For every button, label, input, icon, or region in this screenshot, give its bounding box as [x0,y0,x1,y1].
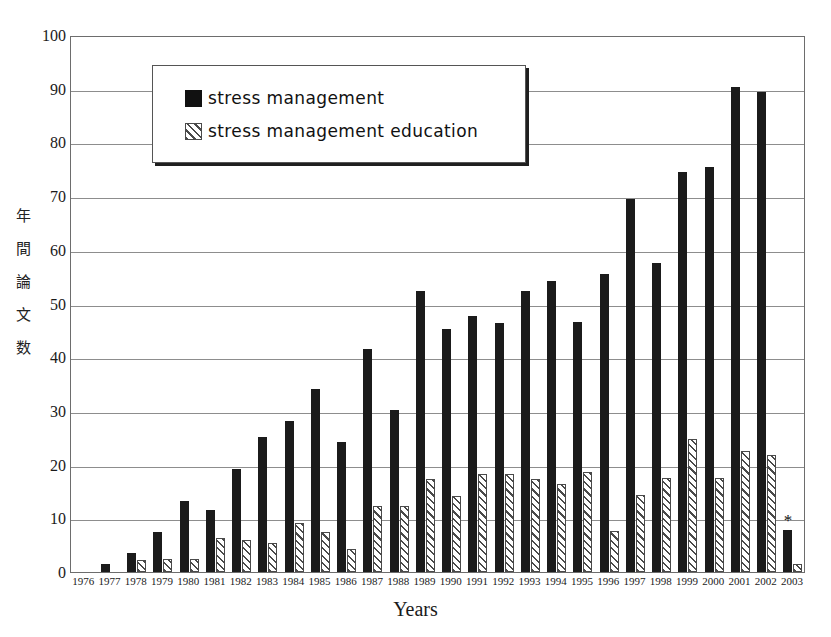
bar-hatch-2000 [715,478,724,572]
x-tick-1977: 1977 [98,575,120,587]
bar-hatch-1995 [583,472,592,572]
bar-solid-1997 [626,199,635,572]
bar-hatch-1978 [137,560,146,572]
legend-swatch-solid [185,90,202,107]
x-tick-1986: 1986 [335,575,357,587]
x-tick-1987: 1987 [361,575,383,587]
bar-hatch-1985 [321,532,330,572]
bar-solid-2002 [757,92,766,572]
x-tick-2000: 2000 [702,575,724,587]
bar-solid-1991 [468,316,477,572]
bar-hatch-1990 [452,496,461,572]
bar-hatch-1981 [216,538,225,572]
x-tick-1995: 1995 [571,575,593,587]
bar-solid-1998 [652,263,661,572]
bar-solid-1985 [311,389,320,572]
bar-solid-1990 [442,329,451,572]
bar-solid-1983 [258,437,267,572]
bar-solid-1988 [390,410,399,572]
bar-solid-1977 [101,564,110,572]
bar-hatch-1986 [347,549,356,572]
bar-solid-1986 [337,442,346,572]
bar-hatch-1999 [688,439,697,572]
bar-solid-1994 [547,281,556,572]
x-tick-1998: 1998 [650,575,672,587]
x-tick-1988: 1988 [387,575,409,587]
y-tick-100: 100 [28,27,66,45]
bar-solid-1992 [495,323,504,572]
bar-solid-1995 [573,322,582,572]
x-axis-label: Years [0,598,831,621]
x-tick-2003: 2003 [781,575,803,587]
bar-solid-1989 [416,291,425,572]
bar-hatch-2002 [767,455,776,572]
x-tick-2002: 2002 [755,575,777,587]
y-tick-60: 60 [28,242,66,260]
bar-hatch-1996 [610,531,619,572]
x-tick-1997: 1997 [623,575,645,587]
x-axis-ticks: 1976197719781979198019811982198319841985… [70,575,805,597]
bar-solid-1996 [600,274,609,572]
x-tick-1981: 1981 [203,575,225,587]
x-tick-1985: 1985 [308,575,330,587]
x-tick-1989: 1989 [413,575,435,587]
x-tick-1990: 1990 [440,575,462,587]
bar-hatch-1991 [478,474,487,572]
legend-item-stress-management: stress management [185,83,384,113]
x-tick-2001: 2001 [728,575,750,587]
x-tick-1982: 1982 [230,575,252,587]
legend-label-1: stress management education [208,121,478,141]
x-tick-1999: 1999 [676,575,698,587]
x-tick-1994: 1994 [545,575,567,587]
y-tick-70: 70 [28,188,66,206]
bar-hatch-1988 [400,506,409,572]
bar-chart: 年間論文数 0102030405060708090100 * 197619771… [0,0,831,637]
x-tick-1984: 1984 [282,575,304,587]
bar-solid-2000 [705,167,714,572]
x-tick-1983: 1983 [256,575,278,587]
y-axis-ticks: 0102030405060708090100 [22,0,66,637]
x-tick-1993: 1993 [518,575,540,587]
bar-hatch-1997 [636,495,645,572]
bar-solid-2003 [783,530,792,572]
bar-solid-1978 [127,553,136,572]
bar-solid-1980 [180,501,189,572]
y-tick-40: 40 [28,349,66,367]
bar-solid-1981 [206,510,215,572]
bar-hatch-2003 [793,564,802,572]
bar-solid-1987 [363,349,372,572]
y-tick-10: 10 [28,510,66,528]
bar-hatch-1998 [662,478,671,573]
bar-hatch-1993 [531,479,540,572]
bar-hatch-1994 [557,484,566,572]
bar-solid-1984 [285,421,294,572]
y-tick-80: 80 [28,134,66,152]
x-tick-1991: 1991 [466,575,488,587]
bar-hatch-1979 [163,559,172,572]
legend: stress management stress management educ… [152,65,526,163]
bar-hatch-1980 [190,559,199,572]
x-tick-1996: 1996 [597,575,619,587]
bar-solid-1993 [521,291,530,572]
y-tick-90: 90 [28,81,66,99]
x-tick-1976: 1976 [72,575,94,587]
y-tick-30: 30 [28,403,66,421]
bar-hatch-1984 [295,523,304,572]
x-tick-1980: 1980 [177,575,199,587]
legend-swatch-hatch [185,123,202,140]
bar-hatch-1983 [268,543,277,572]
x-tick-1992: 1992 [492,575,514,587]
y-tick-50: 50 [28,296,66,314]
y-tick-20: 20 [28,457,66,475]
bar-solid-1999 [678,172,687,572]
annotation-asterisk-2003: * [784,512,793,529]
legend-item-stress-management-education: stress management education [185,116,478,146]
bar-solid-2001 [731,87,740,572]
y-tick-0: 0 [28,564,66,582]
bar-hatch-1992 [505,474,514,572]
bar-hatch-1989 [426,479,435,572]
bar-solid-1979 [153,532,162,572]
bar-hatch-1982 [242,540,251,572]
bar-hatch-1987 [373,506,382,572]
x-tick-1979: 1979 [151,575,173,587]
